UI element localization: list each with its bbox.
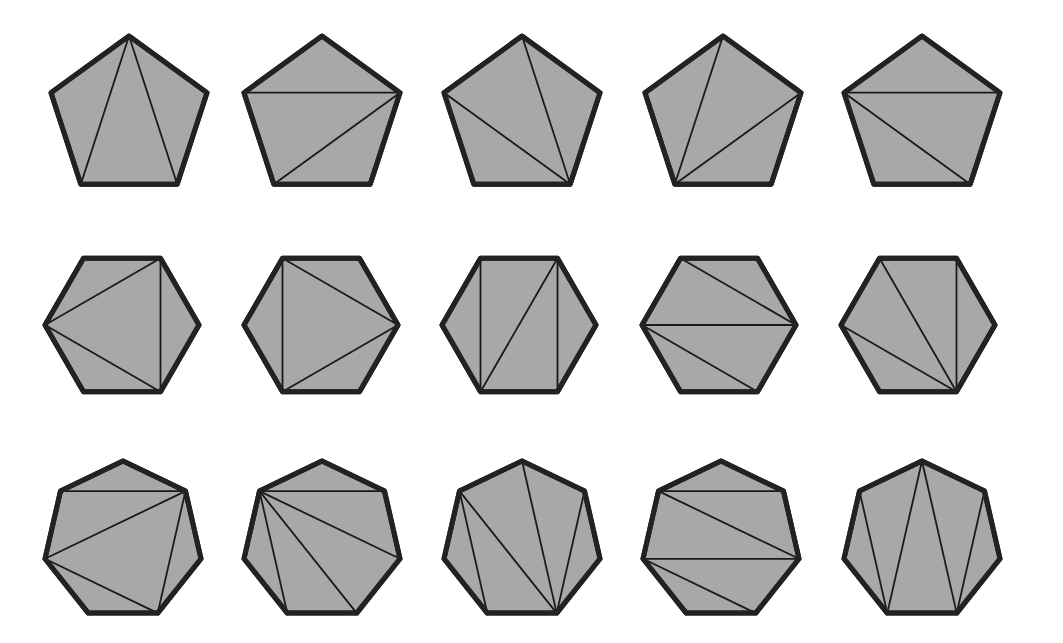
hexagon-triangulation-1 bbox=[45, 258, 199, 391]
pentagon-triangulation-2 bbox=[244, 36, 400, 184]
pentagon-triangulation-4 bbox=[645, 36, 801, 184]
hexagon-triangulation-2 bbox=[244, 258, 398, 391]
triangulation-diagram-canvas bbox=[0, 0, 1063, 643]
heptagon-triangulation-2 bbox=[244, 461, 400, 613]
row-hexagons bbox=[45, 258, 995, 391]
heptagon-triangulation-4 bbox=[643, 461, 799, 613]
pentagon-triangulation-1 bbox=[51, 36, 207, 184]
row-heptagons bbox=[45, 461, 1000, 613]
heptagon-triangulation-5 bbox=[844, 461, 1000, 613]
hexagon-outline bbox=[244, 258, 398, 391]
heptagon-triangulation-3 bbox=[444, 461, 600, 613]
pentagon-triangulation-5 bbox=[844, 36, 1000, 184]
row-pentagons bbox=[51, 36, 1000, 184]
heptagon-triangulation-1 bbox=[45, 461, 201, 613]
hexagon-triangulation-5 bbox=[841, 258, 995, 391]
hexagon-triangulation-3 bbox=[442, 258, 596, 391]
polygon-triangulation-figure bbox=[0, 0, 1063, 643]
hexagon-triangulation-4 bbox=[642, 258, 796, 391]
hexagon-outline bbox=[45, 258, 199, 391]
pentagon-triangulation-3 bbox=[444, 36, 600, 184]
